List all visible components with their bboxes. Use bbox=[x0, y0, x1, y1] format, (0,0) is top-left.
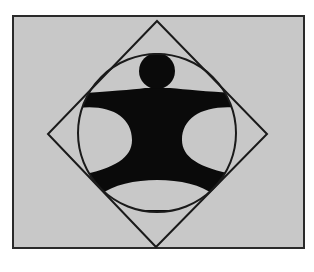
figure-head bbox=[139, 53, 175, 89]
diagram-canvas bbox=[0, 0, 314, 272]
